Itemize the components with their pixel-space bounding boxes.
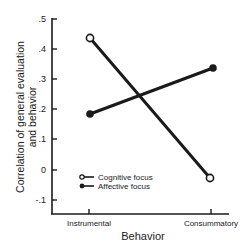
- y-tick-label: 0: [41, 165, 46, 175]
- legend-label-cognitive: Cognitive focus: [98, 173, 153, 182]
- y-tick-label: .2: [38, 104, 46, 114]
- y-tick-label: .5: [38, 14, 46, 24]
- data-point-filled-circle: [209, 64, 217, 72]
- x-category-label-consummatory: Consummatory: [184, 219, 238, 228]
- x-axis-title: Behavior: [121, 230, 165, 242]
- legend-filled-circle-icon: [80, 184, 85, 189]
- line-chart: .5 .4 .3 .2 .1 0 -.1 Instrumental Consum…: [0, 0, 251, 250]
- y-axis-title-line2: and behavior: [26, 86, 38, 147]
- legend: Cognitive focus Affective focus: [80, 173, 153, 191]
- y-axis-title-line1: Correlation of general evaluation: [14, 41, 26, 193]
- data-point-open-circle: [86, 34, 93, 41]
- y-tick-label: -.1: [35, 195, 46, 205]
- y-tick-label: .3: [38, 74, 46, 84]
- y-tick-label: .1: [38, 134, 46, 144]
- data-point-filled-circle: [86, 110, 94, 118]
- legend-open-circle-icon: [80, 175, 84, 179]
- y-tick-label: .4: [38, 44, 46, 54]
- legend-label-affective: Affective focus: [98, 182, 150, 191]
- x-category-label-instrumental: Instrumental: [67, 219, 111, 228]
- data-point-open-circle: [206, 174, 213, 181]
